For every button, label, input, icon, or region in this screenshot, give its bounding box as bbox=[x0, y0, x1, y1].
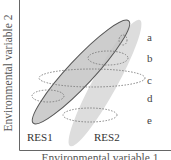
level-label-d: d bbox=[147, 92, 153, 104]
res1-label: RES1 bbox=[27, 131, 53, 143]
niche-diagram: Environmental variable 2 Environmental v… bbox=[0, 0, 171, 160]
res2-label: RES2 bbox=[94, 131, 120, 143]
x-axis-label: Environmental variable 1 bbox=[30, 152, 170, 160]
level-label-e: e bbox=[147, 114, 152, 126]
diagram-canvas bbox=[0, 0, 171, 160]
level-label-b: b bbox=[147, 52, 153, 64]
level-label-a: a bbox=[147, 31, 152, 43]
y-axis-label: Environmental variable 2 bbox=[2, 8, 16, 138]
level-label-c: c bbox=[147, 74, 152, 86]
